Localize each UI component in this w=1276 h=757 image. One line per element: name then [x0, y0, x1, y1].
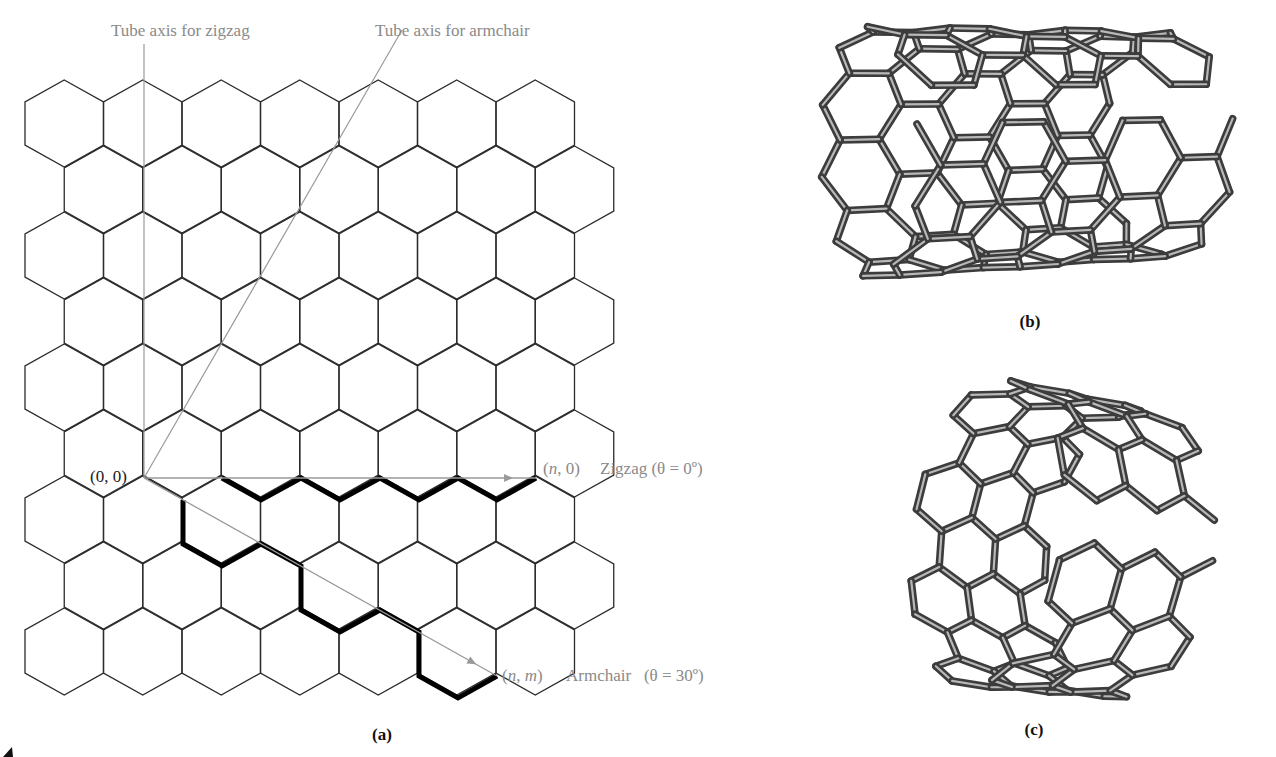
bond-highlight	[1169, 577, 1180, 616]
bond-highlight	[1048, 560, 1059, 601]
bond-highlight	[1182, 428, 1198, 451]
bond-highlight	[1059, 543, 1094, 560]
bond-highlight	[915, 614, 947, 632]
bond-highlight	[959, 463, 980, 484]
caption-a: (a)	[372, 726, 392, 743]
bond-highlight	[1012, 686, 1053, 687]
bond-highlight	[953, 415, 973, 433]
bond-highlight	[1122, 552, 1155, 569]
bond-highlight	[1028, 406, 1066, 407]
armchair-vector-close: )	[537, 666, 543, 685]
armchair-vector-sep: ,	[516, 666, 525, 685]
bond-highlight	[1155, 552, 1181, 577]
nanotube-figure: Tube axis for zigzag Tube axis for armch…	[0, 0, 1276, 757]
bond-highlight	[1013, 444, 1028, 472]
bond-highlight	[1169, 616, 1190, 637]
bond-highlight	[925, 463, 959, 474]
bond-highlight	[917, 509, 942, 531]
caption-c: (c)	[1025, 721, 1044, 738]
bond-highlight	[911, 567, 939, 581]
origin-label: (0, 0)	[90, 468, 127, 485]
bond-highlight	[1071, 691, 1111, 692]
bond-highlight	[1064, 475, 1096, 501]
armchair-tube-bonds	[911, 381, 1214, 697]
armchair-vector-n: n	[508, 666, 517, 685]
caption-b: (b)	[1020, 313, 1041, 330]
bond-highlight	[1145, 414, 1182, 428]
bond-highlight	[1020, 580, 1045, 594]
bond-highlight	[1083, 428, 1119, 449]
bond-highlight	[972, 518, 996, 539]
armchair-vector-m: m	[525, 666, 537, 685]
bond-highlight	[972, 620, 1003, 638]
bond-highlight	[1009, 407, 1028, 427]
bond-highlight	[959, 434, 973, 463]
bond-highlight	[1048, 601, 1072, 623]
bond-highlight	[939, 567, 967, 588]
bond-highlight	[1110, 675, 1132, 691]
bond-highlight	[1097, 486, 1126, 501]
bond-highlight	[1072, 609, 1110, 624]
bond-highlight	[1171, 637, 1190, 666]
bond-highlight	[996, 526, 1025, 539]
bond-highlight	[1082, 417, 1118, 418]
bond-highlight	[1184, 496, 1214, 520]
bond-highlight	[1094, 543, 1121, 569]
armchair-type-label: Armchair (θ = 30º)	[566, 667, 704, 684]
bond-highlight	[1025, 626, 1055, 643]
armchair-vector-label: (n, m)	[502, 667, 543, 684]
zigzag-vector-rest: , 0)	[557, 459, 580, 478]
bond-highlight	[1110, 609, 1132, 631]
bond-highlight	[1132, 616, 1169, 630]
armchair-axis-label: Tube axis for armchair	[375, 22, 530, 39]
armchair-nanotube-render	[0, 0, 1276, 757]
bond-highlight	[967, 574, 993, 588]
zigzag-type-label: Zigzag (θ = 0º)	[600, 460, 703, 477]
bond-highlight	[1157, 496, 1185, 511]
bond-highlight	[942, 518, 972, 532]
bond-highlight	[993, 574, 1020, 594]
bond-highlight	[1013, 473, 1033, 493]
bond-highlight	[1181, 561, 1213, 577]
bond-highlight	[1009, 426, 1027, 444]
bond-highlight	[1126, 486, 1157, 511]
zigzag-axis-label: Tube axis for zigzag	[111, 22, 250, 39]
bond-highlight	[953, 395, 971, 415]
bond-highlight	[947, 620, 971, 632]
bond-highlight	[1127, 416, 1142, 440]
zigzag-vector-n: n	[549, 459, 558, 478]
bond-highlight	[958, 658, 994, 671]
bond-highlight	[1110, 569, 1121, 609]
zigzag-vector-label: (n, 0)	[543, 460, 580, 477]
bond-highlight	[1114, 630, 1132, 660]
bond-highlight	[971, 394, 1010, 395]
bond-highlight	[1142, 440, 1177, 461]
bond-highlight	[1024, 526, 1046, 547]
